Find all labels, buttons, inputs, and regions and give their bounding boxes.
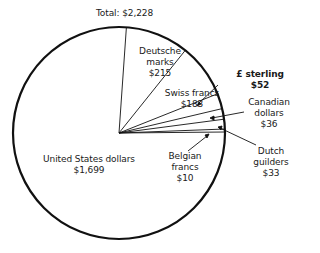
slice-label-sterling: £ sterling $52: [225, 69, 295, 91]
label-line: Belgian: [162, 151, 208, 162]
label-value: $10: [162, 173, 208, 184]
label-value: $52: [225, 80, 295, 91]
slice-label-canadian-dollars: Canadian dollars $36: [244, 97, 294, 130]
slice-label-us-dollars: United States dollars $1,699: [34, 154, 144, 176]
slice-label-swiss-francs: Swiss francs $183: [157, 88, 227, 110]
label-line: francs: [162, 162, 208, 173]
label-line: dollars: [244, 108, 294, 119]
label-line: Canadian: [244, 97, 294, 108]
label-line: £ sterling: [225, 69, 295, 80]
label-line: Deutsche: [130, 46, 190, 57]
total-label: Total: $2,228: [96, 8, 153, 19]
label-line: marks: [130, 57, 190, 68]
label-line: Dutch: [248, 146, 294, 157]
slice-label-dutch-guilders: Dutch guilders $33: [248, 146, 294, 179]
label-value: $33: [248, 168, 294, 179]
slice-boundaries: [119, 27, 225, 133]
label-value: $183: [157, 99, 227, 110]
slice-label-belgian-francs: Belgian francs $10: [162, 151, 208, 184]
label-line: United States dollars: [34, 154, 144, 165]
slice-label-deutsche-marks: Deutsche marks $215: [130, 46, 190, 79]
label-value: $215: [130, 68, 190, 79]
label-value: $1,699: [34, 165, 144, 176]
label-line: Swiss francs: [157, 88, 227, 99]
label-line: guilders: [248, 157, 294, 168]
slice-boundary-line: [119, 27, 126, 133]
label-value: $36: [244, 119, 294, 130]
